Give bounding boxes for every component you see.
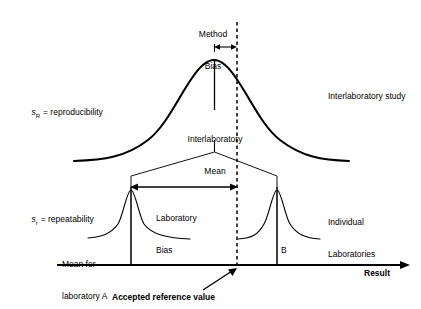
reproducibility-label: sR= reproducibility: [22, 96, 103, 131]
individual-laboratories-line2: Laboratories: [328, 249, 375, 260]
laboratory-bias-label: Laboratory Bias: [156, 192, 197, 276]
method-bias-line1: Method: [185, 29, 241, 40]
accepted-reference-value-label: Accepted reference value: [112, 292, 215, 303]
laboratory-bias-line2: Bias: [156, 245, 197, 256]
result-axis-label: Result: [364, 268, 390, 279]
interlaboratory-mean-line1: Interlaboratory: [166, 134, 264, 145]
laboratory-bias-line1: Laboratory: [156, 213, 197, 224]
mean-for-laboratory-a-label: Mean for laboratory A: [62, 238, 107, 309]
method-bias-label: Method Bias: [185, 8, 241, 92]
interlaboratory-study-label: Interlaboratory study: [328, 91, 405, 102]
laboratory-b-label: B: [281, 245, 287, 256]
reproducibility-text: = reproducibility: [43, 107, 103, 117]
interlaboratory-mean-label: Interlaboratory Mean: [166, 113, 264, 197]
accepted-reference-pointer: [203, 268, 237, 290]
figure-canvas: Method Bias sR= reproducibility Interlab…: [0, 0, 421, 309]
interlaboratory-mean-line2: Mean: [166, 166, 264, 177]
repeatability-subscript: r: [36, 219, 38, 225]
repeatability-text: = repeatability: [41, 214, 94, 224]
reproducibility-subscript: R: [36, 112, 40, 118]
laboratory-b-curve: [238, 190, 320, 239]
method-bias-line2: Bias: [185, 61, 241, 72]
mean-for-laboratory-a-line1: Mean for: [62, 259, 107, 270]
individual-laboratories-line1: Individual: [328, 217, 375, 228]
repeatability-label: sr= repeatability: [22, 203, 94, 238]
mean-for-laboratory-a-line2: laboratory A: [62, 291, 107, 302]
